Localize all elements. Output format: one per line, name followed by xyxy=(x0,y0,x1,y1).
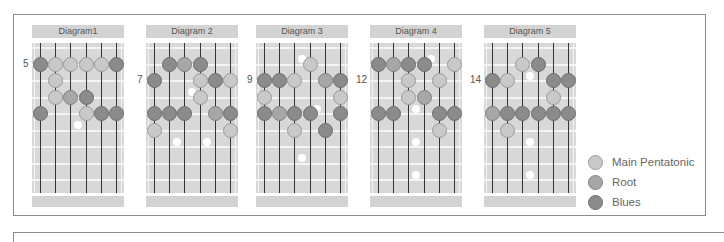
pentatonic-note-dot xyxy=(401,90,416,105)
pentatonic-note-dot xyxy=(401,73,416,88)
fret-number-label: 14 xyxy=(470,74,481,85)
fret-line xyxy=(370,47,462,49)
fret-line xyxy=(370,130,462,132)
fret-line xyxy=(32,146,124,148)
fret-line xyxy=(32,163,124,165)
diagram-title: Diagram 2 xyxy=(146,25,238,38)
diagram-footer-bar xyxy=(146,196,238,207)
fret-line xyxy=(484,47,576,49)
fret-line xyxy=(146,179,238,181)
fret-number-label: 9 xyxy=(247,74,253,85)
blues-note-dot xyxy=(272,73,287,88)
blues-note-dot xyxy=(33,57,48,72)
fret-marker-icon xyxy=(526,72,534,80)
blues-note-dot xyxy=(147,73,162,88)
lower-frame-edge xyxy=(13,232,724,242)
fretboard-diagram-2: Diagram 27 xyxy=(146,25,238,38)
root-note-dot xyxy=(208,106,223,121)
fret-number-label: 5 xyxy=(23,58,29,69)
main-pentatonic-swatch-icon xyxy=(588,155,603,170)
blues-note-dot xyxy=(371,57,386,72)
root-note-dot xyxy=(177,57,192,72)
pentatonic-note-dot xyxy=(447,57,462,72)
pentatonic-note-dot xyxy=(147,123,162,138)
blues-note-dot xyxy=(162,106,177,121)
root-swatch-icon xyxy=(588,175,603,190)
blues-note-dot xyxy=(515,106,530,121)
pentatonic-note-dot xyxy=(432,123,447,138)
blues-note-dot xyxy=(318,123,333,138)
pentatonic-note-dot xyxy=(257,90,272,105)
fret-line xyxy=(256,47,348,49)
fret-line xyxy=(32,47,124,49)
legend-label: Root xyxy=(612,176,636,188)
blues-note-dot xyxy=(257,106,272,121)
fretboard-diagram-4: Diagram 412 xyxy=(370,25,462,38)
blues-note-dot xyxy=(162,57,177,72)
fret-marker-icon xyxy=(412,171,420,179)
blues-note-dot xyxy=(546,106,561,121)
blues-note-dot xyxy=(485,73,500,88)
fretboard-diagram-1: Diagram15 xyxy=(32,25,124,38)
pentatonic-note-dot xyxy=(48,57,63,72)
blues-note-dot xyxy=(531,106,546,121)
fretboard xyxy=(370,43,462,193)
blues-note-dot xyxy=(109,106,124,121)
root-note-dot xyxy=(318,73,333,88)
fret-marker-icon xyxy=(74,121,82,129)
pentatonic-note-dot xyxy=(79,106,94,121)
blues-note-dot xyxy=(147,106,162,121)
fret-line xyxy=(484,97,576,99)
fret-marker-icon xyxy=(526,138,534,146)
blues-note-dot xyxy=(177,106,192,121)
fret-marker-icon xyxy=(412,138,420,146)
fret-line xyxy=(484,163,576,165)
diagram-footer-bar xyxy=(484,196,576,207)
blues-note-dot xyxy=(208,73,223,88)
fret-number-label: 12 xyxy=(356,74,367,85)
root-note-dot xyxy=(386,57,401,72)
fret-line xyxy=(370,146,462,148)
blues-note-dot xyxy=(193,57,208,72)
pentatonic-note-dot xyxy=(432,73,447,88)
guitar-string xyxy=(325,43,326,193)
fret-number-label: 7 xyxy=(137,74,143,85)
fret-line xyxy=(370,163,462,165)
blues-note-dot xyxy=(417,57,432,72)
fret-line xyxy=(32,80,124,82)
diagram-title: Diagram1 xyxy=(32,25,124,38)
fret-line xyxy=(32,130,124,132)
fret-line xyxy=(256,179,348,181)
fret-marker-icon xyxy=(173,138,181,146)
fretboard-diagram-3: Diagram 39 xyxy=(256,25,348,38)
diagram-title: Diagram 4 xyxy=(370,25,462,38)
fretboard xyxy=(484,43,576,193)
pentatonic-note-dot xyxy=(94,57,109,72)
blues-note-dot xyxy=(303,106,318,121)
fretboard xyxy=(32,43,124,193)
blues-note-dot xyxy=(500,106,515,121)
root-note-dot xyxy=(272,106,287,121)
fretboard xyxy=(256,43,348,193)
blues-note-dot xyxy=(94,106,109,121)
fret-line xyxy=(146,163,238,165)
blues-note-dot xyxy=(287,106,302,121)
fretboard xyxy=(146,43,238,193)
pentatonic-note-dot xyxy=(193,73,208,88)
fret-line xyxy=(370,179,462,181)
blues-note-dot xyxy=(79,90,94,105)
fret-line xyxy=(32,179,124,181)
root-note-dot xyxy=(417,90,432,105)
blues-swatch-icon xyxy=(588,195,603,210)
blues-note-dot xyxy=(333,73,348,88)
pentatonic-note-dot xyxy=(63,57,78,72)
pentatonic-note-dot xyxy=(223,123,238,138)
blues-note-dot xyxy=(371,106,386,121)
blues-note-dot xyxy=(33,106,48,121)
blues-note-dot xyxy=(432,106,447,121)
fret-marker-icon xyxy=(412,105,420,113)
diagram-footer-bar xyxy=(256,196,348,207)
pentatonic-note-dot xyxy=(48,90,63,105)
pentatonic-note-dot xyxy=(333,90,348,105)
legend-label: Main Pentatonic xyxy=(612,156,694,168)
